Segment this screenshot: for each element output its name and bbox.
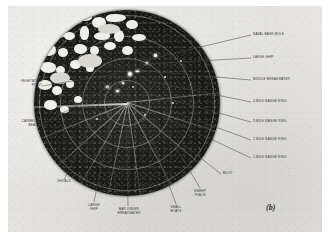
callout-label-line: BEACH (8, 124, 40, 128)
callout-label-vegetation-point: VEGETATION POINT (8, 80, 42, 87)
land-return (104, 42, 116, 50)
callout-label-line: BREAKWATER (106, 212, 152, 216)
land-return (60, 106, 69, 113)
callout-label-line: POINT (8, 84, 42, 88)
callout-label-shoals: SHOALS (48, 180, 80, 184)
callout-label-range-ring-4: 4-MILE RANGE RING (253, 100, 287, 104)
callout-label-line: SHOALS (48, 180, 80, 184)
land-return (74, 44, 87, 54)
land-return (80, 26, 89, 40)
halftone-plate: NAVAL BASE MOLE LARGE SHIP MIDDLE BREAKW… (8, 6, 322, 232)
figure-part-label: (b) (266, 203, 275, 212)
land-return (132, 34, 146, 41)
target-bar-under-breakwater (116, 90, 119, 92)
target-clutter (180, 60, 182, 62)
land-return (58, 48, 68, 57)
target-clutter (144, 114, 146, 116)
figure-container: NAVAL BASE MOLE LARGE SHIP MIDDLE BREAKW… (0, 0, 330, 238)
callout-label-range-ring-2: 2-MILE RANGE RING (253, 138, 287, 142)
land-return (70, 12, 92, 21)
callout-label-middle-breakwater: MIDDLE BREAKWATER (253, 78, 290, 82)
land-return (40, 62, 56, 73)
land-return-soft (78, 54, 102, 68)
target-naval-base-mole (154, 54, 157, 57)
radar-ppi-scope (34, 10, 220, 196)
land-return (52, 86, 62, 95)
callout-label-naval-base-mole: NAVAL BASE MOLE (253, 33, 284, 37)
target-small-boats (122, 82, 124, 84)
target-large-ship-bottom (106, 86, 109, 88)
land-return (44, 100, 57, 110)
land-return (122, 46, 133, 55)
callout-label-line: TRACE (184, 194, 216, 198)
land-return-soft (50, 72, 70, 84)
callout-label-line: BOATS (160, 210, 192, 214)
land-return (74, 96, 82, 103)
callout-label-range-ring-1: 1-MILE RANGE RING (253, 156, 287, 160)
land-return (64, 32, 75, 40)
target-small-boats (132, 86, 134, 88)
land-return-soft (98, 24, 120, 34)
callout-label-range-ring-3: 3-MILE RANGE RING (253, 120, 287, 124)
land-return (126, 20, 138, 29)
target-clutter (164, 76, 166, 78)
target-clutter (172, 102, 174, 104)
radar-scope-wrapper (34, 10, 220, 196)
callout-label-buoy: BUOY (223, 172, 233, 176)
callout-label-sweep-trace: SWEEP TRACE (184, 190, 216, 197)
callout-label-carmello-beach: CARMELLO BEACH (8, 120, 40, 127)
callout-label-bar-under-breakwater: BAR UNDER BREAKWATER (106, 208, 152, 215)
callout-label-small-boats: SMALL BOATS (160, 206, 192, 213)
callout-label-large-ship: LARGE SHIP (253, 56, 273, 60)
land-return (42, 44, 56, 56)
target-clutter (96, 118, 98, 120)
